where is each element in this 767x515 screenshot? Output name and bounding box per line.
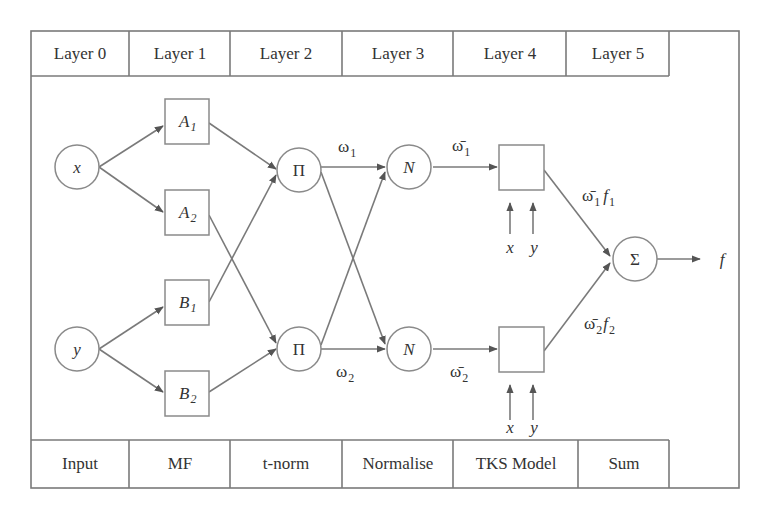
header-layer-5: Layer 5	[592, 44, 644, 63]
normalise-node-1: N	[387, 145, 431, 189]
header-layer-0: Layer 0	[54, 44, 106, 63]
edge-label-w1: ω1	[338, 137, 356, 160]
tnorm-node-1: Π	[277, 148, 321, 192]
footer-mf: MF	[168, 454, 193, 473]
footer-normalise: Normalise	[363, 454, 434, 473]
edge-label-w2-f2: ω̄2f2	[584, 314, 615, 337]
edge-label-w1-bar: ω̄1	[452, 136, 470, 159]
footer-row: Input MF t-norm Normalise TKS Model Sum	[31, 440, 669, 488]
tks2-input-x-label: x	[505, 418, 514, 437]
mf-node-a2: A2	[165, 190, 209, 235]
input-node-x: x	[55, 145, 99, 189]
edge-label-w1-f1: ω̄1f1	[582, 186, 615, 209]
header-layer-4: Layer 4	[484, 44, 537, 63]
tks1-input-x-label: x	[505, 238, 514, 257]
header-row: Layer 0 Layer 1 Layer 2 Layer 3 Layer 4 …	[31, 31, 669, 76]
header-layer-1: Layer 1	[154, 44, 206, 63]
edge-label-w2: ω2	[336, 362, 354, 385]
svg-text:Π: Π	[293, 161, 305, 180]
mf-node-b1: B1	[165, 280, 209, 325]
svg-text:N: N	[402, 340, 416, 359]
tks1-input-y-label: y	[528, 238, 538, 257]
edge-label-w2-bar: ω̄2	[450, 362, 468, 385]
mf-node-a1: A1	[165, 99, 209, 144]
sum-node: Σ	[613, 237, 657, 281]
tks-model-node-1	[499, 145, 544, 190]
tnorm-node-2: Π	[277, 327, 321, 371]
footer-sum: Sum	[608, 454, 639, 473]
svg-text:y: y	[71, 340, 81, 359]
anfis-diagram: Layer 0 Layer 1 Layer 2 Layer 3 Layer 4 …	[0, 0, 767, 515]
footer-input: Input	[62, 454, 98, 473]
tks2-input-y-label: y	[528, 418, 538, 437]
svg-text:N: N	[402, 158, 416, 177]
header-layer-3: Layer 3	[372, 44, 424, 63]
tks-model-node-2	[499, 327, 544, 372]
output-label-f: f	[720, 250, 727, 269]
normalise-node-2: N	[387, 327, 431, 371]
svg-text:Σ: Σ	[630, 250, 640, 269]
svg-text:Π: Π	[293, 340, 305, 359]
input-node-y: y	[55, 327, 99, 371]
mf-node-b2: B2	[165, 371, 209, 416]
footer-tks-model: TKS Model	[476, 454, 557, 473]
header-layer-2: Layer 2	[260, 44, 312, 63]
footer-t-norm: t-norm	[263, 454, 309, 473]
svg-text:x: x	[72, 158, 81, 177]
